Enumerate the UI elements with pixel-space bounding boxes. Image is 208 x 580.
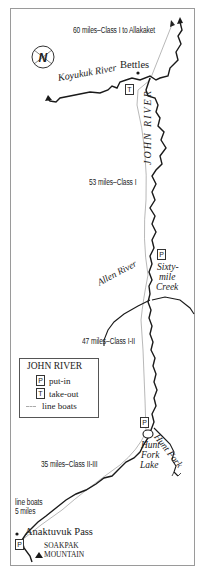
legend-title: JOHN RIVER	[27, 361, 82, 371]
hunt-fork-lake	[143, 430, 153, 438]
dashed-line-icon	[26, 406, 36, 407]
segment-label-4: 35 miles–Class II-III	[41, 459, 98, 469]
river-label-sixtymile-3: Creek	[156, 282, 178, 292]
put-in-marker-hunt-fork: P	[140, 417, 149, 428]
put-in-marker-sixtymile: P	[157, 249, 166, 260]
river-label-john: JOHN RIVER	[142, 89, 153, 165]
legend-item-put-in: P put-in	[36, 375, 71, 386]
river-label-sixtymile-2: mile	[159, 272, 175, 282]
segment-label-2: 53 miles–Class I	[89, 177, 136, 187]
mountain-label-1: SOAKPAK	[44, 541, 79, 550]
place-label-bettles: Bettles	[120, 59, 149, 70]
svg-text:N: N	[39, 51, 48, 65]
segment-label-1: 60 miles–Class I to Allakaket	[73, 25, 155, 35]
sixtymile-creek	[152, 297, 194, 314]
place-label-anaktuvuk-pass: Anaktuvuk Pass	[25, 526, 93, 537]
bettles-dot	[136, 71, 139, 74]
take-out-marker-bettles: T	[125, 84, 134, 95]
compass-icon: N	[32, 46, 54, 68]
take-out-icon: T	[36, 388, 45, 399]
legend-item-line-boats: line boats	[26, 401, 77, 411]
legend-label: take-out	[49, 389, 79, 399]
anaktuvuk-pass-dot	[15, 532, 18, 535]
mountain-icon	[35, 552, 43, 558]
mountain-label-2: MOUNTAIN	[44, 550, 84, 559]
lake-label-2: Fork	[141, 450, 159, 460]
segment-label-3: 47 miles–Class I-II	[82, 336, 135, 346]
lake-label-1: Hunt	[141, 440, 160, 450]
legend-item-take-out: T take-out	[36, 388, 79, 399]
map-legend: JOHN RIVER P put-in T take-out line boat…	[19, 358, 99, 418]
legend-label: line boats	[42, 401, 77, 411]
lake-label-3: Lake	[140, 460, 158, 470]
put-in-marker-anaktuvuk: P	[15, 539, 24, 550]
line-boats-label-2: 5 miles	[15, 506, 35, 516]
legend-label: put-in	[49, 376, 71, 386]
put-in-icon: P	[36, 375, 45, 386]
river-label-sixtymile-1: Sixty-	[157, 262, 179, 272]
